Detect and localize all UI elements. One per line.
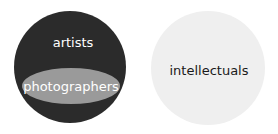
intellectuals-label: intellectuals — [169, 64, 248, 77]
artists-circle — [14, 11, 126, 123]
photographers-label: photographers — [23, 80, 119, 93]
artists-label: artists — [53, 36, 94, 49]
